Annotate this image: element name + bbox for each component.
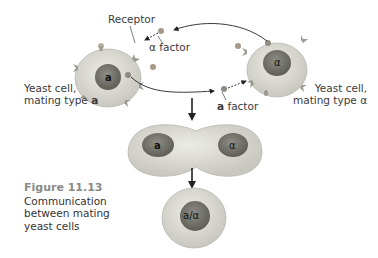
nucleus-label-a: a bbox=[105, 72, 112, 84]
a-factor-label: a factor bbox=[217, 100, 258, 112]
cell-a-label: Yeast cell, mating type a bbox=[24, 82, 98, 106]
receptor-leader bbox=[130, 26, 135, 43]
a-factor-path-arrow bbox=[131, 77, 214, 92]
cell-alpha-label: Yeast cell, mating type α bbox=[293, 82, 367, 106]
diploid-nucleus-label: a/α bbox=[183, 210, 199, 222]
fused-nucleus-label-a: a bbox=[154, 140, 161, 152]
a-factor-molecule bbox=[221, 86, 227, 92]
alpha-factor-path-arrow bbox=[174, 24, 267, 41]
figure-caption: Figure 11.13 Communication between matin… bbox=[24, 182, 110, 232]
receptor-label: Receptor bbox=[108, 13, 155, 25]
nucleus-label-alpha: α bbox=[274, 57, 281, 69]
figure-number: Figure 11.13 bbox=[24, 182, 110, 195]
alpha-factor-molecule bbox=[158, 28, 164, 34]
alpha-factor-label: α factor bbox=[149, 41, 190, 53]
fused-nucleus-label-alpha: α bbox=[229, 140, 236, 152]
fused-cell bbox=[128, 125, 262, 177]
